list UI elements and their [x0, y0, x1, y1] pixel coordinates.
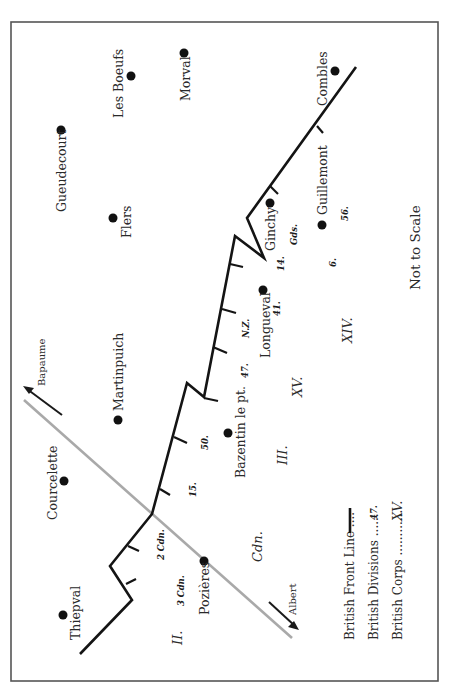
flers-dot: [109, 214, 118, 223]
guillemont-label: Guillemont: [315, 145, 330, 215]
division-6: 6.: [328, 258, 338, 267]
division-2cdn: 2 Cdn.: [156, 529, 166, 561]
les-boeufs-dot: [127, 72, 136, 81]
corps-ii: II.: [170, 631, 185, 646]
longueval-label: Longueval: [258, 292, 273, 358]
corps-canadian: Cdn.: [250, 531, 265, 562]
thiepval-dot: [59, 611, 68, 620]
ginchy-label: Ginchy: [263, 206, 278, 251]
morval-label: Morval: [178, 56, 193, 101]
bapaume-arrow-icon: [23, 386, 62, 415]
martinpuich-label: Martinpuich: [111, 333, 126, 411]
bazentin-dot: [224, 429, 233, 438]
division-56: 56.: [340, 206, 350, 221]
martinpuich-dot: [114, 416, 123, 425]
division-nz: N.Z.: [241, 319, 251, 339]
division-50: 50.: [200, 435, 210, 450]
corps-xiv: XIV.: [340, 317, 355, 344]
legend-divisions-sample: 47.: [369, 505, 379, 520]
legend-divisions-label: British Divisions ......: [367, 513, 381, 640]
les-boeufs-label: Les Boeufs: [111, 49, 126, 118]
flers-label: Flers: [119, 206, 134, 238]
courcelette-label: Courcelette: [45, 446, 60, 520]
legend-corps-sample: XV.: [390, 500, 405, 522]
bapaume-label: Bapaume: [36, 338, 47, 386]
gueudecourt-label: Gueudecourt: [54, 130, 69, 212]
legend-corps-label: British Corps ............: [391, 510, 405, 640]
morval-dot: [180, 49, 189, 58]
corps-xv: XV.: [290, 376, 305, 398]
division-14: 14.: [276, 256, 286, 271]
division-41: 41.: [272, 301, 282, 316]
division-guards: Gds.: [289, 224, 299, 245]
bapaume-albert-road: [24, 400, 292, 638]
courcelette-dot: [60, 477, 69, 486]
scale-note: Not to Scale: [407, 205, 423, 290]
legend: British Front Line .... British Division…: [343, 500, 405, 640]
corps-iii: III.: [275, 445, 290, 466]
ginchy-dot: [266, 199, 275, 208]
guillemont-dot: [318, 221, 327, 230]
division-47: 47.: [240, 363, 250, 378]
combles-label: Combles: [315, 51, 330, 106]
division-15: 15.: [188, 482, 198, 497]
somme-battle-map: Bapaume Albert Thiepval Courcelette Pozi…: [0, 0, 451, 682]
combles-dot: [331, 67, 340, 76]
pozieres-label: Pozières: [197, 562, 212, 615]
thiepval-label: Thiepval: [68, 586, 83, 640]
albert-label: Albert: [287, 583, 298, 616]
division-3cdn: 3 Cdn.: [176, 575, 186, 606]
bazentin-label: Bazentin le pt.: [233, 386, 248, 478]
